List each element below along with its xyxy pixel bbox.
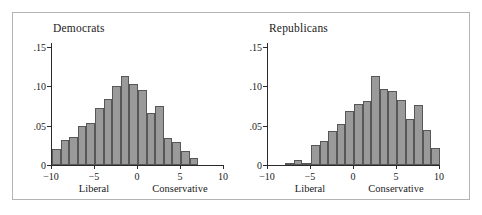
- x-axis-tick-label: −10: [43, 171, 59, 182]
- y-axis-tick-label: 0: [257, 160, 262, 171]
- x-axis-tick: [223, 165, 224, 169]
- x-axis-tick-label: 0: [351, 171, 356, 182]
- histogram-bar: [52, 149, 61, 165]
- histogram-bar: [431, 148, 440, 165]
- histogram-bar: [337, 124, 346, 165]
- x-axis-tick: [267, 165, 268, 169]
- y-axis-tick-label: .15: [250, 41, 263, 52]
- histogram-bar: [172, 142, 181, 165]
- histogram-bar: [121, 76, 130, 165]
- plot-area-republicans: 0.05.10.15−10−50510LiberalConservative: [267, 43, 439, 165]
- histogram-bar: [112, 86, 121, 165]
- y-axis-tick: [263, 47, 267, 48]
- histogram-bar: [397, 100, 406, 165]
- histogram-bar: [363, 101, 372, 165]
- x-axis-tick: [51, 165, 52, 169]
- histogram-bar: [190, 158, 199, 165]
- histogram-bar: [406, 119, 415, 165]
- x-axis-tick-label: −5: [305, 171, 316, 182]
- histogram-bar: [104, 99, 113, 165]
- histogram-bar: [147, 113, 156, 165]
- y-axis-tick: [263, 126, 267, 127]
- panel-title-democrats: Democrats: [53, 22, 105, 34]
- histogram-bar: [69, 137, 78, 165]
- y-axis-tick-label: .15: [34, 41, 47, 52]
- histogram-bar: [129, 84, 138, 165]
- y-axis-tick-label: 0: [41, 160, 46, 171]
- x-axis-tick: [310, 165, 311, 169]
- x-axis-tick-label: 5: [394, 171, 399, 182]
- histogram-bar: [155, 106, 164, 165]
- y-axis-tick-label: .05: [34, 120, 47, 131]
- figure-frame: Democrats 0.05.10.15−10−50510LiberalCons…: [12, 12, 470, 200]
- x-axis-tick-label: 0: [135, 171, 140, 182]
- chart-panel-democrats: Democrats 0.05.10.15−10−50510LiberalCons…: [13, 13, 242, 199]
- axis-annotation: Liberal: [79, 183, 109, 194]
- panel-title-republicans: Republicans: [269, 22, 328, 34]
- chart-panel-republicans: Republicans 0.05.10.15−10−50510LiberalCo…: [229, 13, 458, 199]
- x-axis-tick-label: 10: [218, 171, 228, 182]
- y-axis-tick: [47, 47, 51, 48]
- histogram-bar: [311, 145, 320, 165]
- histogram-bar: [78, 126, 87, 165]
- histogram-bar: [320, 141, 329, 165]
- x-axis-tick: [353, 165, 354, 169]
- histogram-bar: [294, 160, 303, 165]
- y-axis-tick-label: .10: [34, 81, 47, 92]
- histogram-bar: [285, 163, 294, 165]
- x-axis-tick-label: −5: [89, 171, 100, 182]
- x-axis-tick: [137, 165, 138, 169]
- x-axis-tick: [94, 165, 95, 169]
- x-axis-tick-label: 5: [178, 171, 183, 182]
- histogram-bar: [138, 90, 147, 165]
- y-axis-tick: [47, 126, 51, 127]
- histogram-bar: [328, 131, 337, 165]
- histogram-bar: [354, 104, 363, 165]
- histogram-bar: [380, 89, 389, 165]
- histogram-bar: [95, 108, 104, 165]
- x-axis-tick-label: −10: [259, 171, 275, 182]
- axis-annotation: Liberal: [295, 183, 325, 194]
- y-axis-tick-label: .10: [250, 81, 263, 92]
- histogram-bar: [414, 105, 423, 165]
- y-axis-tick: [47, 86, 51, 87]
- y-axis-tick-label: .05: [250, 120, 263, 131]
- x-axis-tick: [396, 165, 397, 169]
- histogram-bar: [423, 130, 432, 165]
- bars-democrats: [52, 43, 224, 165]
- x-axis-tick: [180, 165, 181, 169]
- axis-annotation: Conservative: [152, 183, 207, 194]
- histogram-bar: [371, 76, 380, 165]
- histogram-bar: [345, 111, 354, 165]
- histogram-bar: [61, 140, 70, 165]
- axis-annotation: Conservative: [368, 183, 423, 194]
- histogram-bar: [388, 91, 397, 165]
- x-axis-tick: [439, 165, 440, 169]
- histogram-bar: [164, 138, 173, 165]
- histogram-bar: [181, 151, 190, 165]
- histogram-bar: [86, 123, 95, 166]
- bars-republicans: [268, 43, 440, 165]
- plot-area-democrats: 0.05.10.15−10−50510LiberalConservative: [51, 43, 223, 165]
- x-axis-tick-label: 10: [434, 171, 444, 182]
- y-axis-tick: [263, 86, 267, 87]
